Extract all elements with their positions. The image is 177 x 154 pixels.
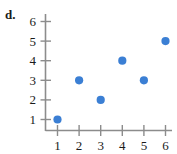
scatter-plot-svg: 123456 123456: [0, 0, 177, 154]
x-tick-label: 5: [141, 138, 148, 153]
data-point: [53, 115, 61, 123]
y-tick-label: 6: [30, 14, 37, 29]
x-tick-label: 3: [97, 138, 104, 153]
data-point: [75, 76, 83, 84]
x-tick-label: 6: [162, 138, 169, 153]
y-tick-labels: 123456: [30, 14, 37, 127]
data-point: [140, 76, 148, 84]
x-tick-labels: 123456: [54, 138, 169, 153]
data-point: [161, 37, 169, 45]
y-axis-group: 123456: [30, 14, 52, 131]
data-point: [118, 57, 126, 65]
data-points-group: [53, 37, 169, 124]
y-tick-label: 1: [30, 112, 37, 127]
x-axis-group: 123456: [46, 125, 173, 153]
y-tick-label: 5: [30, 34, 37, 49]
scatter-plot-figure: d. 123456 123456: [0, 0, 177, 154]
x-tick-label: 4: [119, 138, 126, 153]
y-tick-label: 3: [30, 73, 37, 88]
x-tick-label: 2: [76, 138, 83, 153]
y-tick-label: 4: [30, 53, 37, 68]
data-point: [97, 96, 105, 104]
x-tick-label: 1: [54, 138, 61, 153]
y-tick-label: 2: [30, 92, 37, 107]
